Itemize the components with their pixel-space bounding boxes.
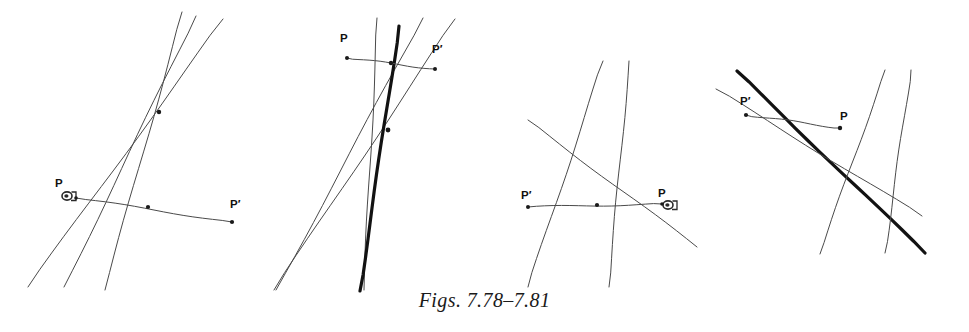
fig-7-81-point-label-P: P bbox=[840, 111, 848, 123]
fig-7-78-line-a bbox=[105, 12, 182, 290]
fig-7-78-midpoint-dot bbox=[146, 205, 150, 209]
fig-7-79-line-bold bbox=[360, 26, 399, 291]
fig-7-81-line-c bbox=[885, 70, 911, 253]
fig-7-80-pencil-mark bbox=[663, 201, 677, 210]
fig-7-79-concurrency-point bbox=[386, 128, 391, 133]
fig-7-79-midpoint-dot bbox=[389, 61, 393, 65]
fig-7-79-endpoint-dot-P bbox=[345, 56, 349, 60]
fig-7-78-line-b bbox=[64, 16, 196, 287]
fig-7-81-line-bold bbox=[737, 71, 925, 253]
fig-7-79-segment-PPprime bbox=[347, 58, 435, 69]
fig-7-81-line-a bbox=[716, 89, 922, 216]
fig-7-79-line-c bbox=[274, 19, 455, 290]
fig-7-78-endpoint-dot-Pp bbox=[230, 220, 234, 224]
fig-7-80-midpoint-dot bbox=[595, 203, 599, 207]
fig-7-81-endpoint-dot-Pp bbox=[744, 113, 748, 117]
fig-7-78-point-label-Pp: P′ bbox=[230, 199, 240, 211]
fig-7-80 bbox=[526, 61, 697, 287]
fig-7-80-line-c bbox=[609, 61, 629, 287]
fig-7-78-pencil-mark bbox=[62, 192, 76, 201]
fig-7-81-line-b bbox=[820, 70, 885, 254]
fig-7-80-line-b bbox=[528, 61, 603, 287]
fig-7-80-segment-PPprime bbox=[528, 204, 662, 207]
fig-7-78-point-label-P: P bbox=[55, 178, 63, 190]
fig-7-79-line-b bbox=[276, 18, 423, 290]
figure-caption: Figs. 7.78–7.81 bbox=[0, 289, 969, 312]
figure-plate: PP′PP′P′PP′P Figs. 7.78–7.81 bbox=[0, 0, 969, 332]
fig-7-80-endpoint-dot-P bbox=[660, 202, 664, 206]
fig-7-78-line-c bbox=[28, 19, 223, 287]
fig-7-81-segment-PPprime bbox=[746, 115, 840, 128]
fig-7-79-endpoint-dot-Pp bbox=[433, 67, 437, 71]
fig-7-79-point-label-Pp: P′ bbox=[432, 44, 442, 56]
fig-7-80-endpoint-dot-Pp bbox=[526, 205, 530, 209]
fig-7-81-endpoint-dot-P bbox=[838, 126, 842, 130]
fig-7-78 bbox=[28, 12, 234, 290]
fig-7-80-point-label-P: P bbox=[658, 188, 666, 200]
fig-7-81-point-label-Pp: P′ bbox=[740, 96, 750, 108]
figure-ink-layer bbox=[0, 0, 969, 332]
fig-7-80-line-a bbox=[528, 120, 697, 247]
fig-7-79 bbox=[274, 18, 455, 291]
fig-7-78-segment-PPprime bbox=[76, 198, 232, 222]
fig-7-78-concurrency-point bbox=[157, 110, 161, 114]
fig-7-79-line-a bbox=[364, 18, 377, 290]
fig-7-79-point-label-P: P bbox=[340, 33, 348, 45]
fig-7-78-endpoint-dot-P bbox=[74, 196, 78, 200]
fig-7-80-point-label-Pp: P′ bbox=[521, 190, 531, 202]
